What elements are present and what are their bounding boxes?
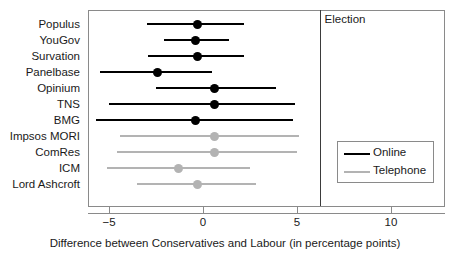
election-annotation-label: Election (325, 13, 366, 25)
data-row-bmg (0, 113, 450, 127)
estimate-point-icm (174, 164, 183, 173)
legend-swatch-telephone-icon (344, 171, 370, 173)
estimate-point-populus (193, 20, 202, 29)
data-row-yougov (0, 33, 450, 47)
legend-swatch-online-icon (344, 153, 370, 155)
x-tick-label-3: 10 (385, 216, 398, 228)
confidence-interval-tns (109, 103, 295, 105)
estimate-point-comres (210, 148, 219, 157)
legend-item-online: Online (342, 145, 432, 161)
estimate-point-opinium (210, 84, 219, 93)
chart-container: PopulusYouGovSurvationPanelbaseOpiniumTN… (0, 0, 450, 266)
data-row-tns (0, 97, 450, 111)
data-row-populus (0, 17, 450, 31)
x-tick-label-1: 0 (200, 216, 206, 228)
estimate-point-lord-ashcroft (193, 180, 202, 189)
x-tick-label-0: −5 (102, 216, 115, 228)
estimate-point-panelbase (153, 68, 162, 77)
election-reference-line (320, 10, 321, 206)
x-axis-title: Difference between Conservatives and Lab… (0, 237, 450, 249)
legend: Online Telephone (337, 141, 434, 183)
x-tick-0 (109, 207, 110, 213)
estimate-point-tns (210, 100, 219, 109)
x-tick-2 (297, 207, 298, 213)
legend-item-telephone: Telephone (342, 163, 432, 179)
legend-label-telephone: Telephone (373, 164, 426, 176)
data-row-panelbase (0, 65, 450, 79)
legend-label-online: Online (373, 146, 406, 158)
data-row-opinium (0, 81, 450, 95)
x-tick-1 (203, 207, 204, 213)
estimate-point-yougov (191, 36, 200, 45)
x-tick-3 (391, 207, 392, 213)
x-tick-label-2: 5 (294, 216, 300, 228)
estimate-point-impsos-mori (210, 132, 219, 141)
estimate-point-survation (193, 52, 202, 61)
confidence-interval-comres (117, 151, 297, 153)
estimate-point-bmg (191, 116, 200, 125)
x-axis-line (88, 213, 445, 214)
data-row-survation (0, 49, 450, 63)
